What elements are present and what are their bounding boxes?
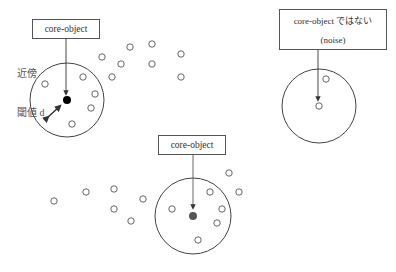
data-point bbox=[236, 189, 242, 195]
noise-label-line1: core-object ではない bbox=[280, 14, 386, 28]
data-point bbox=[178, 51, 184, 57]
core-point-n3 bbox=[189, 212, 197, 220]
core-object-label-2-text: core-object bbox=[171, 140, 214, 150]
data-point bbox=[118, 61, 124, 67]
data-point bbox=[69, 121, 75, 127]
threshold-d-arrow bbox=[47, 107, 59, 118]
data-point bbox=[149, 61, 155, 67]
data-point bbox=[51, 198, 57, 204]
data-point bbox=[83, 189, 89, 195]
data-point bbox=[178, 74, 184, 80]
data-point bbox=[323, 76, 329, 82]
data-point bbox=[109, 74, 115, 80]
data-point bbox=[128, 218, 134, 224]
data-point bbox=[149, 41, 155, 47]
data-point bbox=[42, 81, 48, 87]
data-point bbox=[169, 206, 175, 212]
data-point bbox=[207, 189, 213, 195]
data-point bbox=[226, 170, 232, 176]
core-point-n1 bbox=[63, 96, 71, 104]
core-object-label-1-text: core-object bbox=[45, 24, 88, 34]
data-point bbox=[111, 186, 117, 192]
noise-label-box: core-object ではない (noise) bbox=[279, 9, 387, 50]
data-point bbox=[80, 74, 86, 80]
data-point bbox=[195, 237, 201, 243]
data-point bbox=[214, 220, 220, 226]
data-point bbox=[111, 206, 117, 212]
core-object-label-2: core-object bbox=[158, 135, 226, 155]
data-point bbox=[92, 91, 98, 97]
data-point bbox=[140, 196, 146, 202]
data-point bbox=[219, 206, 225, 212]
data-point bbox=[88, 105, 94, 111]
threshold-label: 閾値 d bbox=[17, 104, 45, 119]
pointer-arrows bbox=[47, 39, 318, 207]
data-point bbox=[127, 44, 133, 50]
data-point bbox=[99, 54, 105, 60]
noise-point-n2 bbox=[316, 103, 322, 109]
core-object-label-1: core-object bbox=[32, 19, 100, 39]
neighborhood-label: 近傍 bbox=[17, 65, 37, 80]
noise-label-line2: (noise) bbox=[280, 33, 386, 47]
